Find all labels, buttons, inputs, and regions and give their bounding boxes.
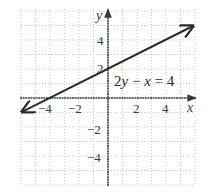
equation-rhs: = 4 [151, 73, 175, 89]
x-axis-label: x [186, 100, 194, 115]
y-tick-label: −2 [87, 122, 101, 137]
x-tick-label: −4 [38, 101, 52, 116]
equation-label: 2y − x = 4 [114, 73, 175, 89]
x-tick-label: 2 [133, 101, 140, 116]
y-axis-label: y [94, 8, 103, 23]
equation-coef: 2 [114, 73, 122, 89]
y-tick-label: 2 [97, 61, 104, 76]
equation-var-y: y [120, 73, 129, 89]
x-tick-label: −2 [68, 101, 82, 116]
x-tick-label: 4 [162, 101, 169, 116]
coordinate-plane-graph: y x −4 −2 2 4 4 2 −2 −4 2y − x = 4 [0, 0, 209, 192]
y-tick-label: −4 [87, 150, 101, 165]
equation-op: − [128, 73, 144, 89]
y-tick-label: 4 [97, 33, 104, 48]
